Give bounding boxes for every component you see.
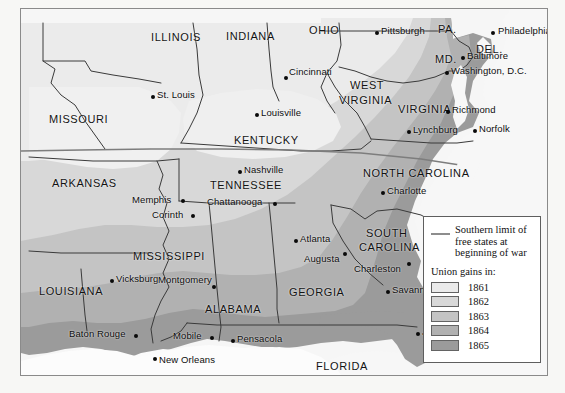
legend-southern-limit-text: Southern limit of free states at beginni… xyxy=(455,224,527,259)
city-dot-augusta xyxy=(343,252,347,256)
map-legend: Southern limit of free states at beginni… xyxy=(423,216,541,363)
city-dot-montgomery xyxy=(212,285,216,289)
legend-gain-row-1862: 1862 xyxy=(431,294,533,309)
legend-limit-line-1: Southern limit of xyxy=(455,224,527,236)
city-dot-corinth xyxy=(191,214,195,218)
city-dot-savannah xyxy=(386,290,390,294)
city-dot-jacksonville xyxy=(416,332,420,336)
city-dot-pensacola xyxy=(231,339,235,343)
city-dot-lynchburg xyxy=(407,130,411,134)
region-missouri-1861 xyxy=(29,87,181,169)
legend-union-gains-title: Union gains in: xyxy=(431,266,533,277)
city-dot-norfolk xyxy=(473,129,477,133)
legend-year-1864: 1864 xyxy=(468,325,489,336)
city-dot-new-orleans xyxy=(153,357,157,361)
city-dot-philadelphia xyxy=(491,31,495,35)
city-dot-pittsburgh xyxy=(375,31,379,35)
city-dot-charlotte xyxy=(381,191,385,195)
southern-limit-line-swatch xyxy=(431,233,450,235)
city-dot-charleston xyxy=(407,262,411,266)
city-dot-memphis xyxy=(181,199,185,203)
screenshot-root: MISSOURI ILLINOIS INDIANA OHIO PA. DEL. … xyxy=(0,0,565,393)
legend-swatch-1865 xyxy=(431,340,459,351)
legend-limit-line-2: free states at xyxy=(455,236,527,248)
city-dot-baton-rouge xyxy=(134,334,138,338)
city-dot-richmond xyxy=(446,110,450,114)
city-dot-vicksburg xyxy=(110,279,114,283)
city-dot-st-louis xyxy=(151,95,155,99)
city-dot-baltimore xyxy=(461,56,465,60)
legend-gain-row-1865: 1865 xyxy=(431,338,533,353)
legend-gain-row-1863: 1863 xyxy=(431,309,533,324)
city-dot-cincinnati xyxy=(284,76,288,80)
legend-year-1865: 1865 xyxy=(468,340,489,351)
legend-gain-row-1864: 1864 xyxy=(431,323,533,338)
city-dot-atlanta xyxy=(294,239,298,243)
legend-swatch-1862 xyxy=(431,296,459,307)
legend-southern-limit-entry: Southern limit of free states at beginni… xyxy=(431,224,533,259)
city-dot-mobile xyxy=(210,336,214,340)
legend-year-1861: 1861 xyxy=(468,282,489,293)
city-dot-washington-dc xyxy=(445,71,449,75)
legend-gain-row-1861: 1861 xyxy=(431,280,533,295)
legend-year-1862: 1862 xyxy=(468,296,489,307)
legend-limit-line-3: beginning of war xyxy=(455,247,527,259)
legend-swatch-1863 xyxy=(431,311,459,322)
legend-swatch-1861 xyxy=(431,282,459,293)
legend-swatch-1864 xyxy=(431,325,459,336)
legend-year-1863: 1863 xyxy=(468,311,489,322)
city-dot-nashville xyxy=(238,170,242,174)
city-dot-louisville xyxy=(255,113,259,117)
city-dot-chattanooga xyxy=(273,202,277,206)
